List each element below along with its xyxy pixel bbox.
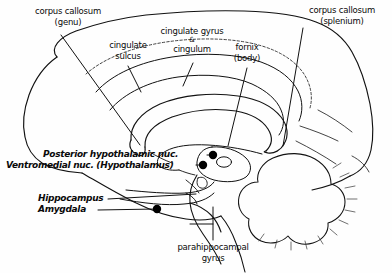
ventromedial-nucleus-dot — [199, 161, 207, 169]
occipital-sulcus-minor — [318, 110, 352, 132]
massa-intermedia — [217, 157, 232, 167]
label-corpus-callosum-splenium-line1: corpus callosum — [309, 5, 375, 15]
leader-corpus-callosum-splenium — [283, 28, 303, 146]
label-cingulate-gyrus-line2: cingulum — [173, 44, 211, 54]
posterior-hypothalamic-nucleus-dot — [209, 151, 217, 159]
cerebellum-outline — [238, 154, 345, 245]
label-corpus-callosum-splenium: corpus callosum (splenium) — [294, 5, 390, 26]
leader-amygdala — [98, 209, 157, 210]
parieto-occipital-sulcus — [300, 126, 338, 141]
label-fornix-body-line1: fornix — [235, 42, 258, 52]
cerebellar-folia — [330, 229, 337, 235]
label-corpus-callosum-genu: corpus callosum (genu) — [14, 6, 122, 27]
label-hippocampus: Hippocampus — [38, 193, 103, 204]
cingulate-gyrus-inner — [110, 75, 283, 135]
label-posterior-hypothalamic-nucleus: Posterior hypothalamic nuc. — [43, 149, 178, 160]
cerebellar-folia — [305, 241, 307, 249]
cerebellar-folia — [275, 240, 277, 248]
label-amygdala: Amygdala — [38, 204, 86, 215]
label-cingulate-gyrus-line1: cingulate gyrus — [161, 26, 224, 36]
label-corpus-callosum-genu-line1: corpus callosum — [35, 6, 101, 16]
label-fornix-body: fornix (body) — [218, 42, 276, 63]
cerebellar-folia — [339, 220, 348, 224]
label-corpus-callosum-splenium-line2: (splenium) — [320, 16, 363, 26]
leader-cingulate-sulcus — [128, 66, 141, 92]
corpus-callosum-splenium — [264, 144, 284, 153]
corpus-callosum-superior-border — [131, 94, 287, 144]
leader-cingulate-gyrus — [183, 63, 193, 86]
label-parahippocampal-gyrus-line2: gyrus — [202, 253, 225, 263]
label-corpus-callosum-genu-line2: (genu) — [55, 17, 82, 27]
leader-fornix-body — [228, 68, 247, 146]
anterior-commissure — [179, 170, 195, 175]
amygdala-dot — [153, 205, 161, 213]
label-parahippocampal-gyrus: parahippocampal gyrus — [152, 242, 274, 263]
parahippocampal-gyrus-outline — [120, 193, 214, 205]
label-ventromedial-nucleus: Ventromedial nuc. (Hypothalamus) — [6, 160, 173, 171]
cerebellar-folia — [345, 210, 355, 212]
label-fornix-body-line2: (body) — [234, 53, 260, 63]
label-parahippocampal-gyrus-line1: parahippocampal — [177, 242, 248, 252]
cerebellar-folia — [259, 234, 264, 241]
label-cingulate-sulcus-line2: sulcus — [115, 51, 140, 61]
mammillary-body — [197, 177, 207, 188]
cerebellar-folia — [340, 173, 349, 177]
cerebellar-folia — [345, 186, 355, 188]
cerebellar-folia — [333, 163, 341, 168]
calcarine-sulcus — [296, 141, 336, 164]
